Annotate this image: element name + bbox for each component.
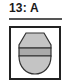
figure-frame [9, 26, 61, 80]
egg-shape-icon [11, 28, 59, 78]
figure-label: 13: A [9, 1, 39, 15]
label-underline [9, 18, 62, 20]
